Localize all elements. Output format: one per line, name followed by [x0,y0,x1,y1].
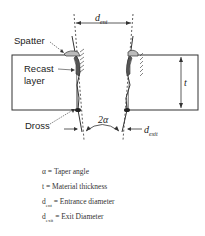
spatter-label: Spatter [14,35,45,46]
legend-item: dexit = Exit Diameter [42,209,115,224]
legend-item: α = Taper angle [42,164,115,179]
dross-right [124,108,130,112]
t-label: t [184,77,187,88]
taper-angle-arc [86,125,119,132]
taper-angle-label: 2α [98,114,108,125]
right-plate [128,55,198,110]
dross-label: Dross [25,120,50,131]
legend-item: dent = Entrance diameter [42,194,115,209]
spatter-right [128,50,138,56]
recast-layer-label: layer [24,75,45,86]
d-exit-label: dexit [144,124,158,137]
legend: α = Taper angle t = Material thickness d… [42,164,115,224]
recast-label: Recast [24,63,54,74]
spatter-left [64,51,80,56]
legend-item: t = Material thickness [42,179,115,194]
d-ent-label: dent [95,12,107,25]
dross-left [75,108,81,112]
